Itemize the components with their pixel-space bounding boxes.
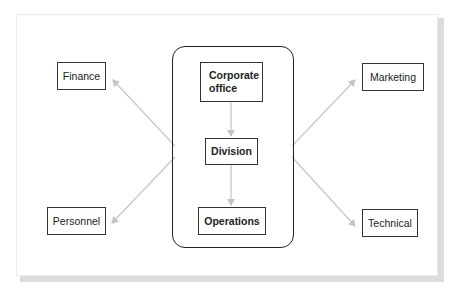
node-operations: Operations (198, 207, 266, 235)
arrow-to-personnel (112, 157, 175, 223)
node-finance-label: Finance (63, 70, 100, 83)
node-marketing-label: Marketing (370, 71, 416, 84)
node-division-label: Division (211, 145, 252, 158)
node-marketing: Marketing (362, 63, 424, 91)
arrow-to-marketing (292, 80, 355, 146)
node-technical: Technical (362, 209, 418, 237)
node-corporate-office-label-1: Corporate (209, 69, 259, 82)
node-personnel-label: Personnel (53, 215, 100, 228)
arrow-to-finance (113, 80, 175, 146)
node-technical-label: Technical (368, 217, 412, 230)
arrow-to-technical (292, 157, 355, 226)
node-personnel: Personnel (47, 207, 106, 235)
node-corporate-office: Corporate office (200, 62, 263, 102)
node-corporate-office-label-2: office (209, 82, 259, 95)
node-finance: Finance (57, 62, 106, 90)
node-division: Division (205, 138, 258, 165)
node-operations-label: Operations (204, 215, 259, 228)
